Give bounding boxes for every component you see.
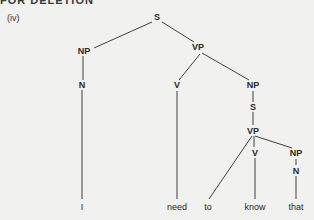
leaf-need: need <box>167 203 187 212</box>
node-s-root: S <box>154 13 160 22</box>
leaf-know: know <box>244 203 265 212</box>
node-vp-main: VP <box>192 43 204 52</box>
node-v-main: V <box>174 81 180 90</box>
node-np-embedded: NP <box>290 149 303 158</box>
tree-edges <box>0 0 314 220</box>
node-n-subject: N <box>79 81 86 90</box>
node-s-embedded: S <box>250 103 256 112</box>
node-np-subject: NP <box>78 47 91 56</box>
leaf-that: that <box>288 203 303 212</box>
leaf-i: I <box>81 203 84 212</box>
node-v-embedded: V <box>252 149 258 158</box>
node-n-embedded: N <box>293 167 300 176</box>
node-vp-embedded: VP <box>247 127 259 136</box>
leaf-to: to <box>204 203 212 212</box>
node-np-object: NP <box>247 81 260 90</box>
